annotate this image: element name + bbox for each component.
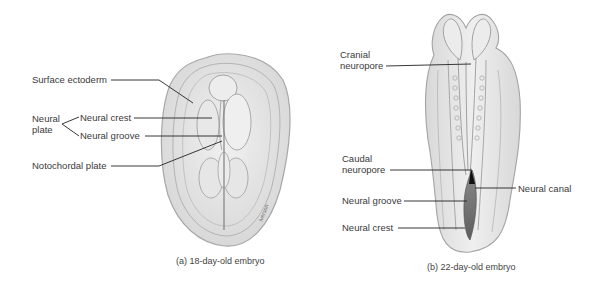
label-caudal-line2: neuropore [342,164,385,175]
label-neural-crest-a: Neural crest [80,112,131,123]
caption-a: (a) 18-day-old embryo [176,256,265,266]
label-neural-plate-line1: Neural [32,113,60,124]
label-neural-plate-line2: plate [32,124,60,135]
label-cranial-line1: Cranial [340,49,383,60]
label-cranial-line2: neuropore [340,60,383,71]
label-cranial-neuropore: Cranial neuropore [340,49,383,71]
label-neural-plate: Neural plate [32,113,60,135]
caption-b: (b) 22-day-old embryo [427,262,516,272]
embryo-18-day: Iverson [161,54,290,246]
label-neural-crest-b: Neural crest [342,222,393,233]
label-neural-groove-b: Neural groove [342,195,402,206]
label-neural-groove-a: Neural groove [80,130,140,141]
label-notochordal-plate: Notochordal plate [32,160,106,171]
label-neural-canal: Neural canal [518,183,571,194]
embryo-22-day [426,14,521,252]
label-caudal-line1: Caudal [342,153,385,164]
label-surface-ectoderm: Surface ectoderm [32,74,107,85]
embryo-illustrations: Iverson [0,0,602,291]
label-caudal-neuropore: Caudal neuropore [342,153,385,175]
